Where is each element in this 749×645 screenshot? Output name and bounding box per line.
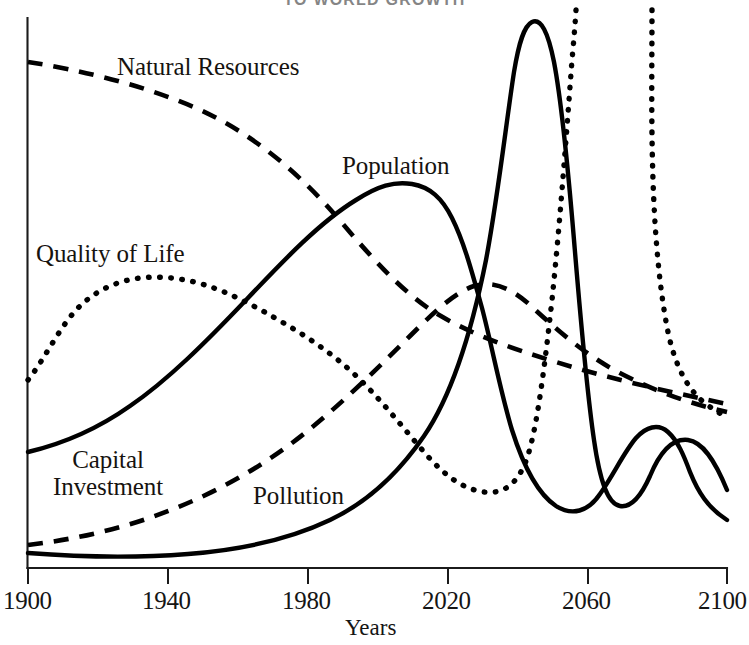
x-axis-title: Years [345, 615, 396, 641]
x-tick-label-2060: 2060 [562, 587, 611, 615]
curve-label-natural-resources: Natural Resources [117, 54, 299, 81]
curve-label-pollution: Pollution [253, 483, 344, 510]
series-curve-quality-of-life-branch [652, 10, 727, 417]
curve-label-capital-investment: Capital Investment [53, 447, 163, 500]
curve-label-population: Population [342, 153, 449, 180]
chart-root: TO WORLD GROWTH 1900 1940 1980 2020 20 [0, 0, 749, 645]
curve-label-capital-investment-line1: Capital [53, 447, 163, 474]
x-tick-label-2020: 2020 [422, 587, 471, 615]
x-tick-label-2100: 2100 [698, 587, 747, 615]
curve-label-capital-investment-line2: Investment [53, 474, 163, 501]
series-curve-natural-resources [28, 62, 727, 404]
chart-plot-area [0, 0, 749, 645]
x-tick-label-1940: 1940 [142, 587, 191, 615]
x-tick-label-1900: 1900 [3, 587, 52, 615]
x-axis-ticks [28, 568, 727, 584]
curve-label-quality-of-life: Quality of Life [36, 241, 184, 268]
x-tick-label-1980: 1980 [282, 587, 331, 615]
